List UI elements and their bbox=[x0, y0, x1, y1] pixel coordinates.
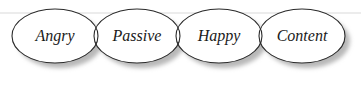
label-passive: Passive bbox=[112, 27, 162, 44]
label-angry: Angry bbox=[34, 27, 75, 45]
label-content: Content bbox=[277, 27, 328, 44]
emotion-ellipse-diagram: Angry Passive Happy Content bbox=[0, 0, 361, 92]
label-happy: Happy bbox=[197, 27, 242, 45]
